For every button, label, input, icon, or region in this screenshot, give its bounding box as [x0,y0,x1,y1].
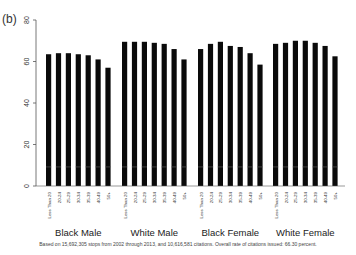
bar-band [152,166,157,167]
x-tick-label: 35-39 [313,191,318,203]
x-tick-label: 30-34 [76,191,81,203]
y-tick-label: 60 [23,58,30,66]
x-tick-label: 50+ [333,192,338,200]
bar [56,53,61,186]
x-tick-label: Less Than 20 [47,191,52,218]
bar [313,43,318,186]
bar-band [181,166,186,167]
bar-band [257,166,262,167]
bar-band [313,166,318,167]
bar [152,43,157,186]
bar [132,42,137,186]
x-tick-label: 20-24 [57,191,62,203]
x-tick-label: 30-34 [303,191,308,203]
y-tick-label: 40 [23,99,30,107]
grouped-bar-chart: 020406080Less Than 2020-2425-2930-3435-3… [0,0,356,255]
bar-band [208,166,213,167]
bar [238,47,243,186]
bar-band [96,166,101,167]
bar [283,43,288,186]
bar [323,46,328,186]
bar-band [105,166,110,167]
group-label: White Male [131,227,179,238]
bar-band [323,166,328,167]
bar-band [76,166,81,167]
bar-band [122,166,127,167]
bar [46,54,51,186]
bar [142,42,147,186]
x-tick-label: 40-49 [172,191,177,203]
bar-band [172,166,177,167]
x-tick-label: 40-49 [248,191,253,203]
bar [66,53,71,186]
x-tick-label: 50+ [106,192,111,200]
bar-band [162,166,167,167]
bar-band [198,166,203,167]
y-tick-label: 80 [23,16,30,24]
x-tick-label: 35-39 [162,191,167,203]
x-tick-label: 30-34 [228,191,233,203]
x-tick-label: 25-29 [142,191,147,203]
bar-band [56,166,61,167]
bar-band [142,166,147,167]
bar [303,41,308,186]
y-tick-label: 0 [23,184,30,188]
x-tick-label: 25-29 [218,191,223,203]
bar [218,42,223,186]
bar-band [66,166,71,167]
bar [248,53,253,186]
x-tick-label: Less Than 20 [199,191,204,218]
bar [228,46,233,186]
x-tick-label: Less Than 20 [123,191,128,218]
x-tick-label: 40-49 [323,191,328,203]
chart-footnote: Based on 15,692,305 stops from 2002 thro… [0,241,356,247]
bar-band [283,166,288,167]
bar [198,49,203,186]
x-tick-label: 50+ [258,192,263,200]
bar-band [332,166,337,167]
group-label: Black Female [202,227,260,238]
x-tick-label: 20-24 [209,191,214,203]
bar [105,68,110,186]
bar [273,44,278,186]
bar-band [293,166,298,167]
bar-band [86,166,91,167]
x-tick-label: 25-29 [66,191,71,203]
x-tick-label: 30-34 [152,191,157,203]
bar-band [218,166,223,167]
bar [208,44,213,186]
x-tick-label: 25-29 [293,191,298,203]
x-tick-label: 35-39 [238,191,243,203]
bar [122,42,127,186]
bar-band [248,166,253,167]
bar-band [228,166,233,167]
bar [162,44,167,186]
x-tick-label: 20-24 [133,191,138,203]
bar-band [238,166,243,167]
bar-band [303,166,308,167]
bar [293,41,298,186]
bar-band [273,166,278,167]
y-tick-label: 20 [23,141,30,149]
bar [76,54,81,186]
bar-band [132,166,137,167]
x-tick-label: 35-39 [86,191,91,203]
bar [172,49,177,186]
x-tick-label: Less Than 20 [274,191,279,218]
x-tick-label: 50+ [182,192,187,200]
x-tick-label: 40-49 [96,191,101,203]
group-label: Black Male [55,227,101,238]
x-tick-label: 20-24 [284,191,289,203]
group-label: White Female [276,227,335,238]
bar [257,65,262,186]
bar-band [46,166,51,167]
